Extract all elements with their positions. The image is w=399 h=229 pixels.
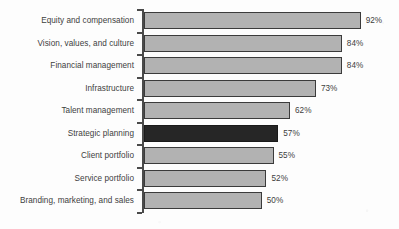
bar-category-label: Infrastructure bbox=[0, 80, 134, 97]
axis-tick bbox=[137, 167, 142, 169]
bar-category-label: Equity and compensation bbox=[0, 12, 134, 29]
bar-value-label: 62% bbox=[295, 102, 312, 119]
bar-value-label: 92% bbox=[366, 12, 383, 29]
plot-area: Equity and compensation92%Vision, values… bbox=[0, 0, 399, 229]
axis-tick bbox=[137, 144, 142, 146]
bar-value-label: 84% bbox=[347, 35, 364, 52]
axis-tick bbox=[137, 122, 142, 124]
bar-row: Infrastructure73% bbox=[0, 80, 399, 97]
bar-row: Service portfolio52% bbox=[0, 170, 399, 187]
bar-value-label: 84% bbox=[347, 57, 364, 74]
bar-value-label: 50% bbox=[267, 192, 284, 209]
bar-value-label: 52% bbox=[271, 170, 288, 187]
bar-row: Talent management62% bbox=[0, 102, 399, 119]
bar-category-label: Service portfolio bbox=[0, 170, 134, 187]
bar-rect bbox=[144, 192, 262, 209]
bar-category-label: Strategic planning bbox=[0, 125, 134, 142]
axis-tick bbox=[137, 99, 142, 101]
bar-category-label: Branding, marketing, and sales bbox=[0, 192, 134, 209]
bar-rect bbox=[144, 35, 342, 52]
bar-rect bbox=[144, 57, 342, 74]
axis-tick bbox=[137, 77, 142, 79]
bar-category-label: Financial management bbox=[0, 57, 134, 74]
bar-row: Branding, marketing, and sales50% bbox=[0, 192, 399, 209]
axis-tick bbox=[137, 212, 142, 214]
bar-rect bbox=[144, 147, 274, 164]
bar-category-label: Vision, values, and culture bbox=[0, 35, 134, 52]
bar-rect bbox=[144, 102, 290, 119]
bar-row: Strategic planning57% bbox=[0, 125, 399, 142]
axis-tick bbox=[137, 9, 142, 11]
bar-rect bbox=[144, 80, 316, 97]
axis-tick bbox=[137, 189, 142, 191]
bar-value-label: 55% bbox=[279, 147, 296, 164]
bar-chart-figure: Equity and compensation92%Vision, values… bbox=[0, 0, 399, 229]
bar-rect bbox=[144, 170, 266, 187]
bar-category-label: Client portfolio bbox=[0, 147, 134, 164]
bar-row: Financial management84% bbox=[0, 57, 399, 74]
axis-tick bbox=[137, 54, 142, 56]
bar-rect-highlighted bbox=[144, 125, 278, 142]
bar-rect bbox=[144, 12, 361, 29]
bar-value-label: 73% bbox=[321, 80, 338, 97]
bar-category-label: Talent management bbox=[0, 102, 134, 119]
bar-row: Client portfolio55% bbox=[0, 147, 399, 164]
bar-value-label: 57% bbox=[283, 125, 300, 142]
axis-tick bbox=[137, 32, 142, 34]
bar-row: Equity and compensation92% bbox=[0, 12, 399, 29]
bar-row: Vision, values, and culture84% bbox=[0, 35, 399, 52]
